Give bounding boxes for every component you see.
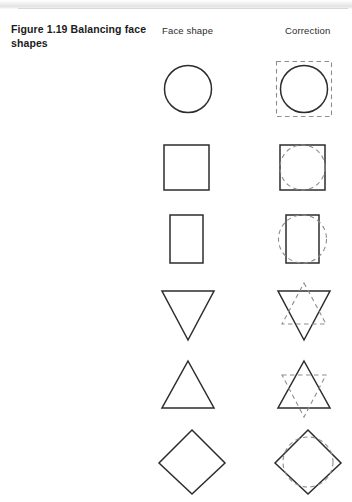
- column-header-correction: Correction: [285, 25, 330, 36]
- correction-inverted-triangle-to-star: [268, 283, 344, 349]
- correction-triangle-to-star: [268, 355, 344, 421]
- correction-square-to-circle: [268, 140, 340, 200]
- face-shape-triangle: [152, 355, 228, 421]
- face-shape-circle: [152, 60, 224, 122]
- figure-caption: Figure 1.19 Balancing face shapes: [11, 22, 153, 51]
- face-shape-diamond: [152, 425, 232, 499]
- face-shape-square: [152, 140, 224, 200]
- correction-rectangle-to-ellipse: [268, 210, 340, 272]
- column-header-face-shape: Face shape: [162, 25, 213, 36]
- face-shape-rectangle: [152, 210, 224, 272]
- figure-page: Figure 1.19 Balancing face shapes Face s…: [0, 0, 352, 502]
- correction-diamond-to-circle: [268, 425, 348, 499]
- correction-circle-to-square: [268, 60, 340, 122]
- scan-artifact-rule: [18, 8, 348, 9]
- face-shape-inverted-triangle: [152, 283, 228, 349]
